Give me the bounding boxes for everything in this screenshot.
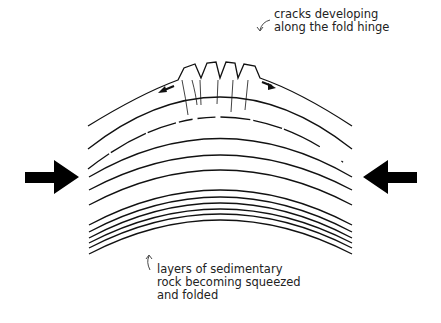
top-layer-surface <box>88 62 352 126</box>
hinge-crack-label: cracks developing along the fold hinge <box>274 8 389 34</box>
sedimentary-layers-label: layers of sedimentary rock becoming sque… <box>157 263 301 302</box>
left-compression-arrow <box>25 160 79 194</box>
divergent-arrows <box>158 82 276 93</box>
right-compression-arrow <box>363 160 417 194</box>
label-line: along the fold hinge <box>274 21 389 34</box>
label-line: and folded <box>157 289 301 302</box>
